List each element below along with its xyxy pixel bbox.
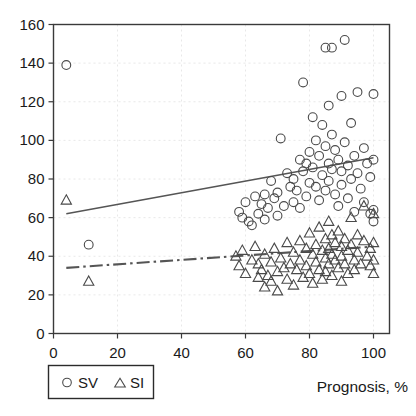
data-point-sv [340, 36, 349, 45]
x-tick-label: 80 [301, 344, 318, 361]
data-point-si [263, 270, 273, 279]
data-point-si [314, 222, 324, 231]
data-point-si [282, 237, 292, 246]
data-point-sv [302, 159, 311, 168]
data-point-si [84, 276, 94, 285]
data-point-sv [273, 211, 282, 220]
data-point-si [234, 261, 244, 270]
data-point-sv [84, 240, 93, 249]
data-point-si [346, 212, 356, 221]
data-point-si [266, 276, 276, 285]
data-point-sv [324, 101, 333, 110]
data-point-si [282, 274, 292, 283]
data-point-sv [299, 78, 308, 87]
data-point-sv [337, 92, 346, 101]
trendline-sv-fit [66, 158, 373, 214]
data-point-sv [296, 155, 305, 164]
data-point-sv [308, 113, 317, 122]
data-point-sv [334, 202, 343, 211]
data-point-si [288, 280, 298, 289]
x-tick-label: 60 [237, 344, 254, 361]
plot-canvas: 020406080100120140160 020406080100 Progn… [0, 0, 416, 416]
data-point-sv [363, 159, 372, 168]
x-tick-label: 100 [361, 344, 386, 361]
y-tick-label: 20 [28, 286, 45, 303]
data-point-sv [347, 119, 356, 128]
data-point-si [272, 286, 282, 295]
data-point-sv [315, 196, 324, 205]
y-tick-label: 0 [36, 325, 44, 342]
data-point-sv [292, 186, 301, 195]
data-point-sv [360, 144, 369, 153]
data-point-sv [331, 190, 340, 199]
x-axis-title: Prognosis, % [317, 378, 409, 395]
data-point-sv [308, 163, 317, 172]
y-tick-label: 120 [19, 93, 44, 110]
scatter-chart: 020406080100120140160 020406080100 Progn… [0, 0, 416, 416]
series-si-points [61, 195, 378, 295]
data-point-sv [257, 200, 266, 209]
y-tick-label: 140 [19, 54, 44, 71]
data-point-sv [276, 134, 285, 143]
x-tick-label: 0 [49, 344, 57, 361]
y-tick-label: 40 [28, 247, 45, 264]
legend-label-sv: SV [78, 374, 98, 391]
series-sv-points [62, 36, 378, 250]
data-point-si [276, 253, 286, 262]
trendlines [66, 158, 373, 268]
data-point-sv [350, 151, 359, 160]
data-point-sv [324, 177, 333, 186]
data-point-si [359, 235, 369, 244]
data-point-sv [353, 88, 362, 97]
y-tick-label: 80 [28, 170, 45, 187]
data-point-sv [315, 151, 324, 160]
data-point-si [311, 239, 321, 248]
y-tick-label: 60 [28, 209, 45, 226]
y-tick-label: 100 [19, 131, 44, 148]
data-point-sv [340, 138, 349, 147]
data-point-sv [296, 204, 305, 213]
data-point-sv [334, 155, 343, 164]
data-point-si [269, 243, 279, 252]
data-point-sv [353, 169, 362, 178]
data-point-sv [337, 180, 346, 189]
data-point-sv [328, 43, 337, 52]
x-tick-label: 40 [173, 344, 190, 361]
data-point-sv [321, 142, 330, 151]
legend-label-si: SI [130, 374, 144, 391]
data-point-si [292, 264, 302, 273]
data-point-sv [328, 130, 337, 139]
data-point-sv [356, 184, 365, 193]
data-point-sv [260, 190, 269, 199]
data-point-si [61, 195, 71, 204]
x-tick-label: 20 [109, 344, 126, 361]
data-point-sv [344, 194, 353, 203]
data-point-sv [321, 186, 330, 195]
y-tick-label: 160 [19, 16, 44, 33]
data-point-si [352, 230, 362, 239]
data-point-sv [318, 121, 327, 130]
data-point-sv [312, 182, 321, 191]
data-point-sv [62, 61, 71, 70]
data-point-si [250, 241, 260, 250]
data-point-sv [280, 202, 289, 211]
data-point-sv [331, 146, 340, 155]
data-point-si [295, 235, 305, 244]
y-axis-tick-labels: 020406080100120140160 [19, 16, 44, 342]
data-point-sv [267, 177, 276, 186]
data-point-sv [260, 215, 269, 224]
data-point-sv [366, 173, 375, 182]
data-point-sv [251, 192, 260, 201]
data-point-si [260, 282, 270, 291]
gridlines [54, 25, 390, 334]
data-point-sv [264, 204, 273, 213]
x-axis-tick-labels: 020406080100 [49, 344, 386, 361]
legend: SV SI [49, 366, 154, 399]
